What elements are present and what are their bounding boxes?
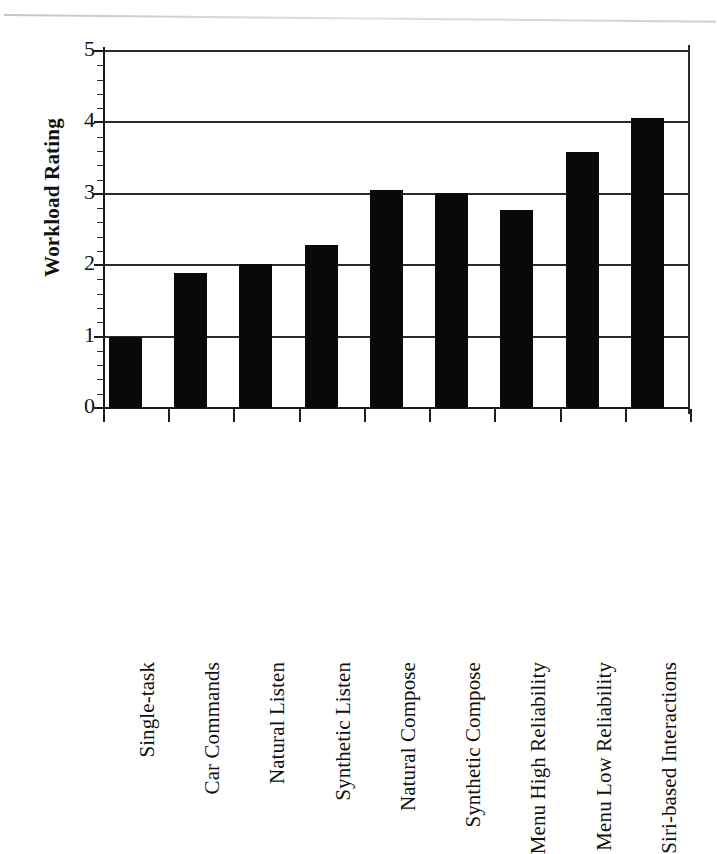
bar bbox=[631, 118, 664, 408]
x-tick bbox=[625, 409, 627, 422]
plot-area bbox=[103, 51, 690, 408]
x-tick-label-wrapper: Menu Low Reliability bbox=[592, 662, 617, 851]
y-axis-tick-labels: 012345 bbox=[55, 51, 95, 408]
x-tick bbox=[494, 409, 496, 422]
bar bbox=[370, 190, 403, 408]
bar bbox=[305, 245, 338, 408]
x-tick-label-wrapper: Car Commands bbox=[200, 662, 225, 794]
x-tick-label: Natural Listen bbox=[265, 662, 290, 784]
x-tick-label-wrapper: Synthetic Listen bbox=[331, 662, 356, 801]
x-tick-label: Menu High Reliability bbox=[526, 662, 551, 854]
bar bbox=[174, 273, 207, 408]
x-tick-label-wrapper: Menu High Reliability bbox=[526, 662, 551, 854]
y-tick-label-1: 1 bbox=[61, 324, 95, 346]
x-tick bbox=[299, 409, 301, 422]
x-tick-label: Natural Compose bbox=[396, 662, 421, 811]
x-tick bbox=[364, 409, 366, 422]
x-axis-ticks bbox=[103, 409, 690, 425]
x-tick-label: Single-task bbox=[135, 662, 160, 758]
x-tick-label-wrapper: Siri-based Interactions bbox=[657, 662, 682, 854]
bar bbox=[566, 152, 599, 408]
x-tick-label-wrapper: Natural Listen bbox=[265, 662, 290, 784]
x-tick bbox=[690, 409, 692, 422]
y-tick-label-4: 4 bbox=[61, 109, 95, 131]
x-tick-label-wrapper: Synthetic Compose bbox=[461, 662, 486, 828]
x-tick-label: Synthetic Listen bbox=[331, 662, 356, 801]
bars-layer bbox=[103, 51, 690, 408]
y-tick-label-0: 0 bbox=[61, 395, 95, 417]
x-tick-label: Siri-based Interactions bbox=[657, 662, 682, 854]
bar bbox=[109, 337, 142, 408]
x-tick-label: Car Commands bbox=[200, 662, 225, 794]
x-tick bbox=[103, 409, 105, 422]
x-tick-label-wrapper: Natural Compose bbox=[396, 662, 421, 811]
x-tick bbox=[168, 409, 170, 422]
x-tick-label: Synthetic Compose bbox=[461, 662, 486, 828]
x-tick bbox=[560, 409, 562, 422]
x-tick-label-wrapper: Single-task bbox=[135, 662, 160, 758]
bar bbox=[239, 264, 272, 408]
x-tick bbox=[429, 409, 431, 422]
x-axis-tick-labels: Single-taskCar CommandsNatural ListenSyn… bbox=[103, 424, 703, 674]
bar bbox=[500, 210, 533, 408]
y-tick-label-3: 3 bbox=[61, 181, 95, 203]
x-tick-label: Menu Low Reliability bbox=[592, 662, 617, 851]
y-tick-label-5: 5 bbox=[61, 38, 95, 60]
y-tick-label-2: 2 bbox=[61, 252, 95, 274]
bar bbox=[435, 193, 468, 408]
x-tick bbox=[233, 409, 235, 422]
